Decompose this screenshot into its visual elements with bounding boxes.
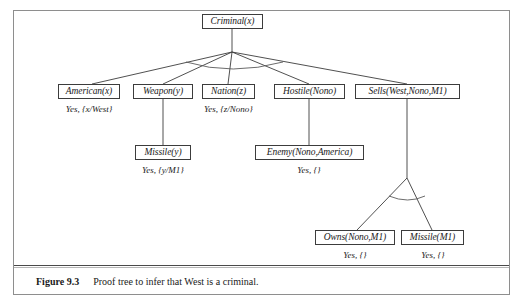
tree-node-label: Criminal(x) (211, 16, 255, 26)
figure-caption: Figure 9.3Proof tree to infer that West … (36, 275, 259, 289)
tree-node-missile-m1[interactable]: Missile(M1) (401, 230, 464, 245)
answer-label-enemy: Yes, {} (276, 165, 342, 176)
tree-node-weapon[interactable]: Weapon(y) (133, 84, 193, 99)
answer-label-nation: Yes, {z/Nono} (194, 104, 263, 115)
tree-node-label: Owns(Nono,M1) (324, 232, 386, 242)
tree-node-hostile[interactable]: Hostile(Nono) (274, 84, 345, 99)
answer-label-missile-y: Yes, {y/M1} (133, 165, 193, 176)
tree-node-label: Hostile(Nono) (283, 86, 336, 96)
tree-node-missile-y[interactable]: Missile(y) (135, 145, 191, 160)
tree-edge-root-weapon (163, 52, 232, 84)
tree-node-label: Sells(West,Nono,M1) (369, 86, 447, 96)
caption-divider (14, 265, 509, 268)
tree-edge-root-american (92, 52, 232, 84)
tree-edge-sells-owns (357, 178, 407, 230)
answer-label-american: Yes, {x/West} (58, 104, 120, 115)
tree-node-american[interactable]: American(x) (58, 84, 120, 99)
tree-node-owns[interactable]: Owns(Nono,M1) (315, 230, 395, 245)
tree-edge-root-hostile (232, 52, 309, 84)
tree-edge-sells-missile (407, 178, 432, 230)
tree-node-label: Nation(z) (211, 86, 246, 96)
tree-node-nation[interactable]: Nation(z) (202, 84, 255, 99)
tree-node-sells[interactable]: Sells(West,Nono,M1) (355, 84, 460, 99)
answer-label-owns: Yes, {} (322, 250, 388, 261)
tree-node-label: Missile(y) (145, 147, 182, 157)
answer-label-missile-m1: Yes, {} (400, 250, 466, 261)
figure-number: Figure 9.3 (36, 276, 79, 287)
tree-edges (92, 29, 432, 230)
root-and-arc (186, 62, 283, 69)
tree-node-criminal[interactable]: Criminal(x) (202, 14, 263, 29)
tree-edge-root-nation (228, 52, 232, 84)
tree-edge-root-sells (232, 52, 407, 84)
tree-node-label: Weapon(y) (143, 86, 183, 96)
tree-node-label: Missile(M1) (410, 232, 455, 242)
tree-node-label: Enemy(Nono,America) (267, 147, 352, 157)
sells-and-arc (389, 196, 425, 200)
tree-node-label: American(x) (66, 86, 112, 96)
tree-node-enemy[interactable]: Enemy(Nono,America) (255, 145, 364, 160)
figure-caption-text: Proof tree to infer that West is a crimi… (93, 276, 258, 287)
figure-container: Criminal(x)American(x)Yes, {x/West}Weapo… (0, 0, 523, 302)
